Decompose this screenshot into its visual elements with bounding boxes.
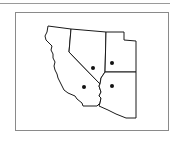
marker-california[interactable] [82, 85, 86, 89]
marker-arizona[interactable] [110, 84, 114, 88]
state-utah[interactable] [105, 32, 136, 72]
state-arizona[interactable] [99, 72, 136, 118]
marker-utah[interactable] [110, 61, 114, 65]
map-svg [0, 0, 180, 141]
marker-nevada[interactable] [91, 66, 95, 70]
